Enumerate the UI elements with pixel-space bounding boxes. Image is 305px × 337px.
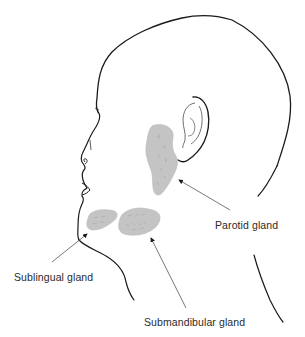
nostril: [84, 159, 87, 164]
ear: [178, 97, 209, 162]
parotid-leader-line: [179, 180, 230, 210]
head-diagram: [0, 0, 305, 337]
parotid-gland-label: Parotid gland: [215, 219, 278, 231]
sublingual-gland-label: Sublingual gland: [14, 271, 93, 283]
sublingual-gland: [87, 210, 117, 230]
parotid-gland: [146, 125, 178, 196]
neck-back-lower: [254, 255, 283, 322]
submandibular-leader-line: [151, 238, 186, 308]
submandibular-gland-label: Submandibular gland: [144, 316, 245, 328]
eye-line: [90, 140, 91, 150]
neck-back-upper: [258, 166, 277, 196]
sublingual-leader-line: [52, 234, 87, 262]
submandibular-gland: [119, 208, 160, 235]
neck-front: [79, 240, 134, 300]
head-outline: [96, 16, 290, 166]
